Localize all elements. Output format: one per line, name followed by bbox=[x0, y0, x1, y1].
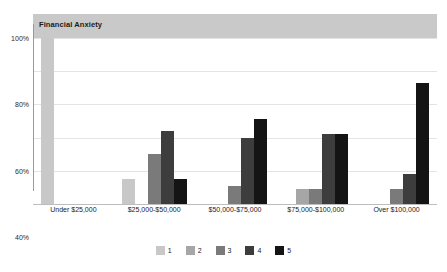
bar-slot bbox=[309, 38, 322, 204]
bar-slot bbox=[161, 38, 174, 204]
x-axis-labels: Under $25,000$25,000-$50,000$50,000-$75,… bbox=[33, 206, 437, 213]
legend-item[interactable]: 5 bbox=[275, 246, 291, 255]
bar-group bbox=[114, 38, 195, 204]
legend-item[interactable]: 3 bbox=[216, 246, 232, 255]
bar-slot bbox=[122, 38, 135, 204]
bar-slot bbox=[80, 38, 93, 204]
y-tick-label-80: 80% bbox=[15, 101, 29, 108]
bar-slot bbox=[202, 38, 215, 204]
bar-slot bbox=[390, 38, 403, 204]
bar-slot bbox=[174, 38, 187, 204]
legend-label: 2 bbox=[198, 247, 202, 254]
bar[interactable] bbox=[390, 189, 403, 204]
y-tick-label-100: 100% bbox=[11, 35, 29, 42]
gridline-0: 0% bbox=[33, 204, 437, 205]
bar-slot bbox=[335, 38, 348, 204]
bar[interactable] bbox=[416, 83, 429, 204]
plot-area: 0%20%40%60%80%100% bbox=[33, 38, 437, 204]
x-axis-label: $75,000-$100,000 bbox=[275, 206, 356, 213]
bar[interactable] bbox=[322, 134, 335, 204]
bar-groups bbox=[33, 38, 437, 204]
bar[interactable] bbox=[174, 179, 187, 204]
bar-slot bbox=[148, 38, 161, 204]
legend-label: 5 bbox=[287, 247, 291, 254]
chart-title: Financial Anxiety bbox=[39, 20, 102, 29]
legend-swatch-icon bbox=[275, 246, 284, 255]
bar[interactable] bbox=[296, 189, 309, 204]
bar-slot bbox=[241, 38, 254, 204]
y-tick-label-40: 40% bbox=[15, 234, 29, 241]
bar-slot bbox=[416, 38, 429, 204]
plot-wrapper: Financial Anxiety 0%20%40%60%80%100% bbox=[33, 14, 437, 204]
bar-slot bbox=[296, 38, 309, 204]
bar-slot bbox=[254, 38, 267, 204]
legend-item[interactable]: 4 bbox=[245, 246, 261, 255]
legend-swatch-icon bbox=[186, 246, 195, 255]
bar[interactable] bbox=[241, 138, 254, 204]
x-axis-label: Over $100,000 bbox=[356, 206, 437, 213]
x-axis-label: $25,000-$50,000 bbox=[114, 206, 195, 213]
legend-label: 4 bbox=[257, 247, 261, 254]
bar-group bbox=[275, 38, 356, 204]
chart-title-band: Financial Anxiety bbox=[33, 14, 437, 38]
bar-slot bbox=[93, 38, 106, 204]
bar[interactable] bbox=[122, 179, 135, 204]
bar[interactable] bbox=[309, 189, 322, 204]
x-axis-label: $50,000-$75,000 bbox=[195, 206, 276, 213]
bar-slot bbox=[135, 38, 148, 204]
bar-slot bbox=[377, 38, 390, 204]
legend-label: 1 bbox=[168, 247, 172, 254]
chart-legend: 12345 bbox=[0, 246, 447, 255]
bar[interactable] bbox=[148, 154, 161, 204]
legend-item[interactable]: 1 bbox=[156, 246, 172, 255]
bar[interactable] bbox=[335, 134, 348, 204]
legend-item[interactable]: 2 bbox=[186, 246, 202, 255]
bar-slot bbox=[283, 38, 296, 204]
bar-slot bbox=[228, 38, 241, 204]
bar-slot bbox=[67, 38, 80, 204]
financial-anxiety-bar-chart: Financial Anxiety 0%20%40%60%80%100% Und… bbox=[0, 0, 447, 272]
y-tick-label-60: 60% bbox=[15, 167, 29, 174]
bar[interactable] bbox=[228, 186, 241, 204]
legend-swatch-icon bbox=[216, 246, 225, 255]
bar-slot bbox=[41, 38, 54, 204]
bar-group bbox=[195, 38, 276, 204]
legend-swatch-icon bbox=[245, 246, 254, 255]
bar[interactable] bbox=[161, 131, 174, 204]
legend-label: 3 bbox=[228, 247, 232, 254]
bar-slot bbox=[364, 38, 377, 204]
bar-group bbox=[33, 38, 114, 204]
x-axis-label: Under $25,000 bbox=[33, 206, 114, 213]
bar[interactable] bbox=[41, 38, 54, 204]
bar-slot bbox=[403, 38, 416, 204]
bar[interactable] bbox=[403, 174, 416, 204]
bar-slot bbox=[322, 38, 335, 204]
bar-slot bbox=[54, 38, 67, 204]
bar-group bbox=[356, 38, 437, 204]
y-axis-line bbox=[33, 24, 34, 191]
legend-swatch-icon bbox=[156, 246, 165, 255]
bar-slot bbox=[215, 38, 228, 204]
bar[interactable] bbox=[254, 119, 267, 204]
